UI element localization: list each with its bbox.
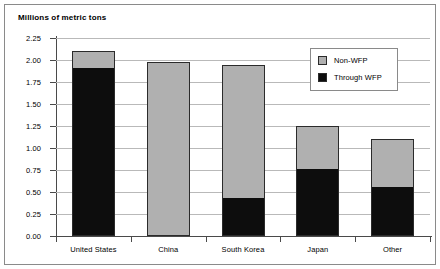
bar-segment-through-wfp [223,198,264,235]
chart-legend: Non-WFP Through WFP [310,48,398,91]
bar-segment-non-wfp [223,66,264,198]
legend-label-non-wfp: Non-WFP [334,56,368,65]
x-axis-label: Other [383,245,402,254]
y-axis-tick: 1.50 [50,104,56,105]
bar-segment-through-wfp [372,187,413,235]
bar-south-korea[interactable] [222,65,265,236]
x-tick-mark [430,237,431,242]
y-tick-label: 0.50 [26,188,41,197]
y-axis-tick: 1.00 [50,148,56,149]
x-tick-mark [56,237,57,242]
y-tick-mark [50,170,56,171]
bar-japan[interactable] [296,126,339,236]
bar-segment-non-wfp [73,52,114,68]
y-axis-tick: 1.25 [50,126,56,127]
bar-segment-non-wfp [372,140,413,186]
bar-segment-non-wfp [297,127,338,169]
y-tick-label: 1.00 [26,144,41,153]
y-tick-mark [50,148,56,149]
bar-other[interactable] [371,139,414,236]
legend-label-through-wfp: Through WFP [334,73,382,82]
y-tick-label: 1.75 [26,78,41,87]
bar-china[interactable] [147,62,190,236]
gridline [56,38,430,39]
y-tick-mark [50,60,56,61]
y-tick-mark [50,104,56,105]
y-tick-mark [50,38,56,39]
chart-screenshot: Millions of metric tons 0.000.250.500.75… [0,0,440,269]
y-tick-label: 0.00 [26,232,41,241]
x-tick-mark [131,237,132,242]
y-axis-tick: 2.00 [50,60,56,61]
x-tick-mark [206,237,207,242]
x-axis-label: South Korea [222,245,265,254]
legend-item-through-wfp: Through WFP [318,73,382,82]
gridline [56,236,430,237]
legend-item-non-wfp: Non-WFP [318,56,368,65]
y-tick-label: 2.00 [26,56,41,65]
y-tick-mark [50,126,56,127]
legend-swatch-gray-icon [318,56,327,65]
y-axis-tick: 1.75 [50,82,56,83]
bar-united-states[interactable] [72,51,115,236]
y-tick-label: 0.25 [26,210,41,219]
x-axis-label: United States [70,245,116,254]
y-axis-tick: 0.25 [50,214,56,215]
legend-swatch-black-icon [318,73,327,82]
bar-segment-through-wfp [297,169,338,235]
y-tick-label: 1.50 [26,100,41,109]
chart-title: Millions of metric tons [18,13,106,22]
y-tick-label: 0.75 [26,166,41,175]
y-axis-tick: 2.25 [50,38,56,39]
y-tick-mark [50,214,56,215]
x-tick-mark [280,237,281,242]
y-tick-label: 1.25 [26,122,41,131]
x-axis-label: China [158,245,178,254]
y-tick-mark [50,192,56,193]
chart-frame: Millions of metric tons 0.000.250.500.75… [4,4,436,265]
y-tick-mark [50,82,56,83]
y-axis-tick: 0.75 [50,170,56,171]
y-tick-label: 2.25 [26,34,41,43]
bar-segment-non-wfp [148,63,189,235]
y-axis-tick: 0.50 [50,192,56,193]
x-axis-label: Japan [307,245,328,254]
bar-segment-through-wfp [73,68,114,235]
x-tick-mark [355,237,356,242]
